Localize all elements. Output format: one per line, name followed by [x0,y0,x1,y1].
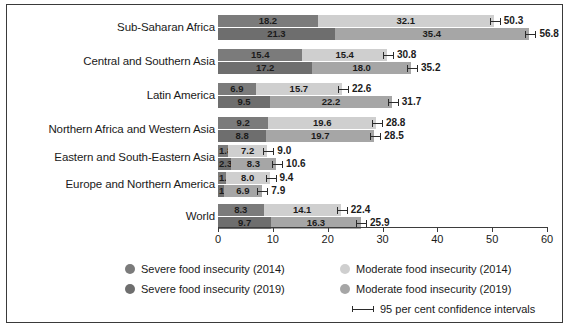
bar-value-severe: 9.5 [218,96,270,108]
bar-segment-moderate: 19.6 [268,117,375,129]
bar-2014: 9.219.6 [218,117,376,129]
bar-total-label: 31.7 [402,96,421,108]
chart-figure: Sub-Saharan Africa18.232.150.321.335.456… [6,4,563,323]
bar-total-label: 22.4 [351,204,370,216]
bar-segment-moderate: 7.2 [228,145,267,157]
bar-value-moderate: 14.1 [264,204,341,216]
category-label: Northern Africa and Western Asia [0,123,215,135]
bar-value-moderate: 8.0 [226,172,270,184]
bar-total-label: 50.3 [504,15,523,27]
bar-value-severe: 2.3 [218,158,231,170]
bar-segment-severe: 2.3 [218,158,231,170]
confidence-interval-bar [272,163,283,165]
bar-2014: 1.87.2 [218,145,267,157]
plot-area: Sub-Saharan Africa18.232.150.321.335.456… [7,5,564,245]
chart-row: Northern Africa and Western Asia9.219.62… [7,117,564,142]
legend-label: 95 per cent confidence intervals [380,303,535,315]
bar-value-moderate: 15.4 [302,49,386,61]
bar-2014: 15.415.4 [218,49,387,61]
bar-total-label: 9.0 [277,145,291,157]
chart-row: Eastern and South-Eastern Asia1.87.29.02… [7,145,564,170]
bar-segment-severe: 9.5 [218,96,270,108]
legend-label: Severe food insecurity (2014) [141,263,285,275]
bar-value-severe: 1.8 [218,145,228,157]
x-axis-tick [492,227,493,232]
bar-value-severe: 21.3 [218,28,335,40]
category-label: Central and Southern Asia [0,55,215,67]
bar-value-severe: 1.4 [218,172,226,184]
x-axis-tick-label: 30 [363,233,403,245]
bar-segment-moderate: 22.2 [270,96,392,108]
bar-value-severe: 6.9 [218,83,256,95]
category-label: Europe and Northern America [0,178,215,190]
bar-segment-moderate: 15.4 [302,49,386,61]
bar-value-severe: 8.8 [218,130,266,142]
bar-total-label: 22.6 [352,83,371,95]
bar-segment-moderate: 8.3 [231,158,277,170]
error-bar-icon [352,304,374,314]
bar-segment-moderate: 19.7 [266,130,374,142]
bar-value-moderate: 15.7 [256,83,342,95]
bar-segment-severe: 15.4 [218,49,302,61]
chart-row: World8.314.122.49.716.325.9 [7,204,564,229]
bar-segment-moderate: 15.7 [256,83,342,95]
bar-segment-moderate: 8.0 [226,172,270,184]
legend-label: Moderate food insecurity (2014) [356,263,511,275]
x-axis-tick [273,227,274,232]
bar-value-moderate: 22.2 [270,96,392,108]
bar-value-moderate: 8.3 [231,158,277,170]
x-axis-tick-label: 50 [472,233,512,245]
bar-segment-moderate: 32.1 [318,15,494,27]
x-axis-tick [437,227,438,232]
legend-item-moderate-2019: Moderate food insecurity (2019) [340,283,511,295]
bar-value-moderate: 7.2 [228,145,267,157]
category-label: Eastern and South-Eastern Asia [0,151,215,163]
category-label: Latin America [0,89,215,101]
bar-segment-severe: 1.8 [218,145,228,157]
legend-dot-icon [340,264,350,274]
x-axis: 0102030405060 [7,227,564,253]
confidence-interval-bar [383,54,394,56]
x-axis-tick [218,227,219,232]
chart-row: Sub-Saharan Africa18.232.150.321.335.456… [7,15,564,40]
x-axis-tick-label: 0 [198,233,238,245]
bar-2014: 18.232.1 [218,15,494,27]
confidence-interval-bar [337,209,348,211]
confidence-interval-bar [525,33,536,35]
bar-value-severe: 9.2 [218,117,268,129]
confidence-interval-bar [490,20,501,22]
bar-2019: 21.335.4 [218,28,529,40]
bar-segment-moderate: 14.1 [264,204,341,216]
confidence-interval-bar [372,122,383,124]
legend-item-severe-2014: Severe food insecurity (2014) [125,263,285,275]
category-label: World [0,210,215,222]
bar-2019: 1.16.9 [218,185,261,197]
legend-item-severe-2019: Severe food insecurity (2019) [125,283,285,295]
bar-value-severe: 8.3 [218,204,264,216]
bar-2019: 9.522.2 [218,96,392,108]
chart-row: Europe and Northern America1.48.09.41.16… [7,172,564,197]
bar-2014: 8.314.1 [218,204,341,216]
confidence-interval-bar [263,150,274,152]
confidence-interval-bar [370,135,381,137]
bar-total-label: 7.9 [271,185,285,197]
chart-legend: Severe food insecurity (2014) Severe foo… [7,255,564,323]
x-axis-tick-label: 20 [308,233,348,245]
confidence-interval-bar [338,88,349,90]
x-axis-tick-label: 10 [253,233,293,245]
bar-value-severe: 15.4 [218,49,302,61]
confidence-interval-bar [407,67,418,69]
bar-total-label: 28.5 [384,130,403,142]
bar-total-label: 35.2 [421,62,440,74]
legend-label: Severe food insecurity (2019) [141,283,285,295]
bar-2014: 6.915.7 [218,83,342,95]
bar-value-moderate: 32.1 [318,15,494,27]
category-label: Sub-Saharan Africa [0,21,215,33]
x-axis-tick [547,227,548,232]
bar-value-moderate: 19.6 [268,117,375,129]
bar-segment-severe: 17.2 [218,62,312,74]
bar-total-label: 30.8 [397,49,416,61]
bar-value-moderate: 18.0 [312,62,411,74]
bar-2019: 2.38.3 [218,158,276,170]
confidence-interval-bar [388,101,399,103]
